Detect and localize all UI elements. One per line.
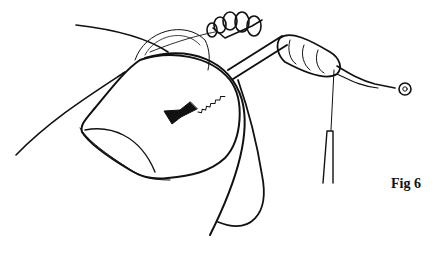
arrow-icon <box>164 102 197 124</box>
hook-shank <box>337 66 395 88</box>
dubbed-body <box>278 35 341 77</box>
fly-tying-illustration <box>0 0 437 253</box>
bobbin-tube <box>323 131 333 183</box>
figure-label: Fig 6 <box>391 176 421 192</box>
thumb-outline <box>82 55 240 178</box>
finger-outline <box>76 25 168 52</box>
thread-loop-2 <box>145 35 200 55</box>
bobbin-thread <box>331 70 334 130</box>
zigzag-line <box>198 91 225 118</box>
finger-lower-outline <box>16 72 125 155</box>
hook-eye <box>399 83 411 95</box>
hook-shank-lower <box>337 74 378 88</box>
thumb-nail <box>85 129 155 172</box>
thread-line <box>150 32 215 52</box>
